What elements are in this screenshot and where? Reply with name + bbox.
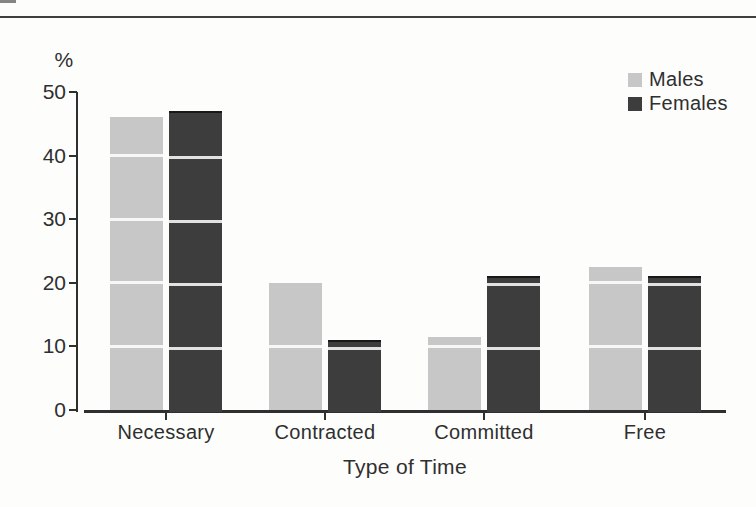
x-tick-committed	[483, 413, 485, 420]
bar-males-committed	[428, 337, 481, 410]
bar-females-contracted	[328, 340, 381, 412]
gridline-stripe-10	[428, 345, 481, 348]
y-tick-0	[69, 409, 77, 411]
y-tick-10	[69, 345, 77, 347]
y-axis-unit-label: %	[42, 48, 86, 72]
gridline-stripe-30	[169, 220, 222, 223]
legend-label-males: Males	[649, 68, 704, 91]
gridline-stripe-20	[589, 281, 642, 284]
x-category-label-free: Free	[570, 421, 720, 444]
x-tick-contracted	[324, 413, 326, 420]
legend-swatch-males	[628, 73, 642, 87]
gridline-stripe-10	[269, 345, 322, 348]
bar-females-free	[648, 276, 701, 412]
x-axis-title: Type of Time	[255, 455, 555, 479]
gridline-stripe-40	[110, 154, 163, 157]
gridline-stripe-10	[487, 347, 540, 350]
x-tick-necessary	[165, 413, 167, 420]
gridline-stripe-20	[648, 283, 701, 286]
gridline-stripe-10	[648, 347, 701, 350]
y-tick-50	[69, 91, 77, 93]
gridline-stripe-20	[110, 281, 163, 284]
legend-item-females: Females	[628, 94, 728, 113]
gridline-stripe-10	[169, 347, 222, 350]
scanned-chart-page: % 01020304050 NecessaryContractedCommitt…	[0, 0, 756, 507]
gridline-stripe-20	[169, 283, 222, 286]
y-tick-label-20: 20	[20, 272, 66, 294]
bar-males-contracted	[269, 283, 322, 410]
y-tick-label-30: 30	[20, 208, 66, 230]
y-tick-label-10: 10	[20, 335, 66, 357]
y-tick-40	[69, 155, 77, 157]
gridline-stripe-40	[169, 156, 222, 159]
y-tick-20	[69, 282, 77, 284]
x-category-label-necessary: Necessary	[91, 421, 241, 444]
gridline-stripe-30	[110, 218, 163, 221]
bar-males-free	[589, 267, 642, 410]
legend-swatch-females	[628, 97, 642, 111]
bar-males-necessary	[110, 117, 163, 410]
gridline-stripe-20	[487, 283, 540, 286]
y-tick-30	[69, 218, 77, 220]
legend-item-males: Males	[628, 70, 728, 89]
bar-females-committed	[487, 276, 540, 412]
legend: MalesFemales	[628, 70, 728, 113]
grouped-bar-chart: % 01020304050 NecessaryContractedCommitt…	[0, 0, 756, 507]
x-tick-free	[644, 413, 646, 420]
bar-females-necessary	[169, 111, 222, 412]
legend-label-females: Females	[649, 92, 728, 115]
x-category-label-contracted: Contracted	[250, 421, 400, 444]
y-tick-label-0: 0	[20, 399, 66, 421]
y-tick-label-50: 50	[20, 81, 66, 103]
x-category-label-committed: Committed	[409, 421, 559, 444]
y-tick-label-40: 40	[20, 145, 66, 167]
gridline-stripe-10	[589, 345, 642, 348]
y-axis-line	[76, 92, 78, 412]
gridline-stripe-10	[328, 347, 381, 350]
gridline-stripe-10	[110, 345, 163, 348]
